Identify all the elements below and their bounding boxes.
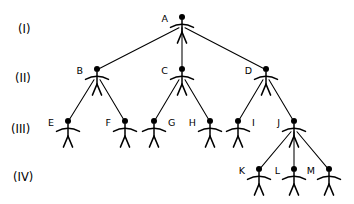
edge-B-F [100, 80, 125, 122]
node-label-F: F [106, 117, 111, 128]
figure-head-I [235, 118, 241, 124]
figure-head-D [263, 66, 269, 72]
figure-leg-right-G [154, 136, 159, 147]
figure-leg-left-G [149, 136, 154, 147]
tree-canvas: ABCDEFGHIJKLM (I)(II)(III)(IV) [0, 0, 354, 204]
stick-figure-B [86, 66, 109, 95]
edge-layer [68, 28, 329, 170]
edge-A-B [97, 28, 179, 70]
node-label-L: L [275, 165, 281, 176]
stick-figure-H [199, 118, 222, 147]
figure-leg-left-D [261, 84, 266, 95]
edge-D-I [238, 80, 263, 122]
figure-head-L [291, 166, 297, 172]
figure-head-G [151, 118, 157, 124]
figure-head-B [94, 66, 100, 72]
figure-leg-right-D [266, 84, 271, 95]
node-label-M: M [307, 165, 315, 176]
level-label-level-4: (IV) [13, 170, 33, 184]
figure-leg-right-J [294, 136, 299, 147]
edge-C-G [154, 80, 179, 122]
figure-leg-left-A [177, 32, 182, 43]
figure-leg-left-C [177, 84, 182, 95]
figure-leg-right-C [182, 84, 187, 95]
figure-leg-right-K [259, 184, 264, 195]
figure-leg-left-B [92, 84, 97, 95]
figure-leg-left-K [254, 184, 259, 195]
stick-figure-G [143, 118, 166, 147]
figure-leg-left-J [289, 136, 294, 147]
figure-leg-right-F [125, 136, 130, 147]
stick-figure-K [248, 166, 271, 195]
stick-figure-C [171, 66, 194, 95]
figure-leg-left-L [289, 184, 294, 195]
figure-leg-right-B [97, 84, 102, 95]
node-label-B: B [76, 65, 83, 76]
figure-leg-left-M [324, 184, 329, 195]
level-label-level-1: (I) [18, 22, 30, 36]
edge-C-H [185, 80, 210, 122]
node-label-A: A [162, 13, 169, 24]
family-tree-diagram: ABCDEFGHIJKLM (I)(II)(III)(IV) [0, 0, 354, 204]
figure-head-F [122, 118, 128, 124]
figure-leg-left-I [233, 136, 238, 147]
node-label-J: J [276, 117, 280, 128]
figure-leg-right-H [210, 136, 215, 147]
figure-leg-left-E [63, 136, 68, 147]
level-label-layer: (I)(II)(III)(IV) [11, 22, 33, 184]
edge-A-D [185, 28, 266, 70]
stick-figure-E [57, 118, 80, 147]
figure-head-A [179, 14, 185, 20]
node-label-H: H [189, 117, 196, 128]
node-label-I: I [252, 117, 255, 128]
level-label-level-2: (II) [15, 71, 31, 85]
stick-figure-F [114, 118, 137, 147]
stick-figure-I [227, 118, 250, 147]
node-label-K: K [239, 165, 246, 176]
figure-leg-left-F [120, 136, 125, 147]
stick-figure-L [283, 166, 306, 195]
node-label-E: E [48, 117, 54, 128]
level-label-level-3: (III) [11, 122, 30, 136]
edge-B-E [68, 80, 94, 122]
node-label-G: G [168, 117, 175, 128]
figure-leg-right-A [182, 32, 187, 43]
figure-head-E [65, 118, 71, 124]
figure-head-C [179, 66, 185, 72]
stick-figure-M [318, 166, 341, 195]
node-label-C: C [161, 65, 168, 76]
figure-leg-right-E [68, 136, 73, 147]
figure-leg-right-M [329, 184, 334, 195]
figure-leg-right-I [238, 136, 243, 147]
figure-head-J [291, 118, 297, 124]
figure-head-M [326, 166, 332, 172]
edge-D-J [269, 80, 294, 122]
figure-head-H [207, 118, 213, 124]
stick-figure-D [255, 66, 278, 95]
figure-leg-right-L [294, 184, 299, 195]
figure-leg-left-H [205, 136, 210, 147]
figure-layer [57, 14, 341, 195]
figure-head-K [256, 166, 262, 172]
node-label-D: D [245, 65, 252, 76]
